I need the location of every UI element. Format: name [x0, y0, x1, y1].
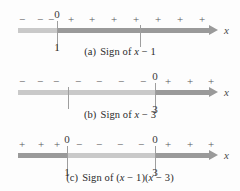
tick-label-above: 0	[148, 134, 162, 145]
minus-sign-icon: −	[34, 76, 46, 87]
number-line-segment-light	[67, 153, 155, 158]
axis-label-x: x	[224, 25, 229, 36]
minus-sign-icon: −	[114, 139, 126, 150]
axis-arrow-icon	[209, 25, 218, 35]
plus-sign-icon: +	[86, 14, 98, 25]
tick-label-above: 0	[148, 71, 162, 82]
number-line-segment-dark	[57, 28, 209, 33]
axis-arrow-icon	[209, 87, 218, 97]
number-line-segment-dark	[155, 153, 209, 158]
caption-expression-part: − 1	[139, 46, 156, 57]
caption-prefix: Sign of	[100, 109, 134, 120]
caption-prefix: Sign of	[100, 46, 134, 57]
axis-tick	[68, 87, 69, 109]
caption-prefix: Sign of	[82, 172, 116, 183]
axis-arrow-icon	[209, 150, 218, 160]
plus-sign-icon: +	[108, 14, 120, 25]
sign-chart-figure: 01−−−+++++++x(a)Sign of x − 103−−−−−−−++…	[0, 0, 240, 191]
plus-sign-icon: +	[184, 139, 196, 150]
minus-sign-icon: −	[72, 76, 84, 87]
caption-label: (b)	[84, 109, 97, 120]
number-line-segment-light	[18, 90, 155, 95]
panel-caption-a: (a)Sign of x − 1	[0, 46, 240, 58]
plus-sign-icon: +	[51, 139, 63, 150]
minus-sign-icon: −	[135, 139, 147, 150]
minus-sign-icon: −	[115, 76, 127, 87]
minus-sign-icon: −	[50, 76, 62, 87]
plus-sign-icon: +	[184, 76, 196, 87]
number-line-c	[0, 149, 240, 163]
caption-expression-part: − 1)(	[125, 172, 149, 183]
caption-label: (a)	[84, 46, 96, 57]
plus-sign-icon: +	[65, 14, 77, 25]
plus-sign-icon: +	[152, 14, 164, 25]
plus-sign-icon: +	[205, 139, 217, 150]
minus-sign-icon: −	[93, 76, 105, 87]
caption-expression-part: − 3	[139, 109, 156, 120]
axis-label-x: x	[224, 87, 229, 98]
axis-tick	[140, 25, 141, 47]
plus-sign-icon: +	[16, 139, 28, 150]
minus-sign-icon: −	[45, 14, 57, 25]
minus-sign-icon: −	[73, 139, 85, 150]
number-line-segment-light	[18, 28, 57, 33]
plus-sign-icon: +	[174, 14, 186, 25]
plus-sign-icon: +	[162, 139, 174, 150]
caption-label: (c)	[66, 172, 78, 183]
minus-sign-icon: −	[137, 76, 149, 87]
number-line-b	[0, 86, 240, 100]
plus-sign-icon: +	[162, 76, 174, 87]
minus-sign-icon: −	[16, 14, 28, 25]
number-line-a	[0, 24, 240, 38]
minus-sign-icon: −	[93, 139, 105, 150]
plus-sign-icon: +	[205, 76, 217, 87]
plus-sign-icon: +	[196, 14, 208, 25]
number-line-segment-dark	[155, 90, 209, 95]
panel-caption-c: (c)Sign of (x − 1)(x − 3)	[0, 172, 240, 184]
axis-label-x: x	[224, 150, 229, 161]
caption-expression-part: − 3)	[153, 172, 173, 183]
number-line-segment-dark	[18, 153, 67, 158]
panel-caption-b: (b)Sign of x − 3	[0, 109, 240, 121]
plus-sign-icon: +	[35, 139, 47, 150]
plus-sign-icon: +	[130, 14, 142, 25]
minus-sign-icon: −	[16, 76, 28, 87]
